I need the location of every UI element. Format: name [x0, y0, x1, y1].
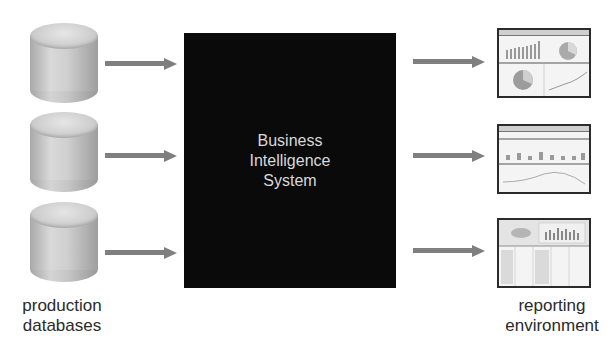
database-cylinder-icon: [30, 112, 98, 192]
bi-system-box: Business Intelligence System: [184, 33, 396, 288]
dashboard-table-icon: [499, 220, 589, 286]
database-cylinder-icon: [30, 202, 98, 282]
bi-line-3: System: [250, 171, 331, 191]
dashboard-report-icon: [497, 28, 591, 98]
bi-system-label: Business Intelligence System: [250, 131, 331, 191]
outputs-label: reporting environment: [490, 296, 614, 336]
arrow-right-icon: [105, 150, 177, 160]
dashboard-report-icon: [497, 124, 591, 194]
sources-label-line-2: databases: [2, 316, 122, 336]
arrow-right-icon: [105, 58, 177, 68]
arrow-right-icon: [413, 150, 485, 160]
bi-line-1: Business: [250, 131, 331, 151]
database-cylinder-icon: [30, 23, 98, 103]
bi-line-2: Intelligence: [250, 151, 331, 171]
sources-label: production databases: [2, 296, 122, 336]
sources-label-line-1: production: [2, 296, 122, 316]
arrow-right-icon: [413, 56, 485, 66]
arrow-right-icon: [413, 245, 485, 255]
outputs-label-line-1: reporting: [490, 296, 614, 316]
dashboard-charts-icon: [499, 126, 589, 192]
arrow-right-icon: [105, 247, 177, 257]
outputs-label-line-2: environment: [490, 316, 614, 336]
dashboard-report-icon: [497, 218, 591, 288]
dashboard-charts-icon: [499, 30, 589, 96]
